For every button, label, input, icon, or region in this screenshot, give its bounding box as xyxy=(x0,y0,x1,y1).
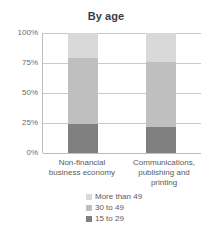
gridline-75 xyxy=(43,63,201,64)
bar-column-1[interactable] xyxy=(146,33,176,153)
category-label-line: Communications, xyxy=(118,158,210,168)
legend-item-label: More than 49 xyxy=(95,192,142,201)
bar-segment-30-to-49[interactable] xyxy=(68,58,98,124)
legend-item-1[interactable]: 30 to 49 xyxy=(0,202,212,213)
legend-item-0[interactable]: More than 49 xyxy=(0,191,212,202)
legend-swatch-icon xyxy=(86,205,92,211)
legend-item-2[interactable]: 15 to 29 xyxy=(0,213,212,224)
bar-segment-15-to-29[interactable] xyxy=(68,124,98,153)
y-axis-tick-label-100: 100% xyxy=(4,29,38,37)
plot-area xyxy=(42,33,200,153)
y-axis-tick-label-50: 50% xyxy=(4,89,38,97)
category-label-line: printing xyxy=(118,178,210,188)
chart-legend: More than 4930 to 4915 to 29 xyxy=(0,191,212,224)
category-label-line: business economy xyxy=(36,168,128,178)
y-axis-tick-label-75: 75% xyxy=(4,59,38,67)
legend-item-label: 30 to 49 xyxy=(95,203,124,212)
y-axis-tick-label-25: 25% xyxy=(4,119,38,127)
bar-segment-15-to-29[interactable] xyxy=(146,127,176,153)
x-axis-category-label-1: Communications,publishing andprinting xyxy=(118,158,210,188)
gridline-50 xyxy=(43,93,201,94)
bar-segment-more-than-49[interactable] xyxy=(146,33,176,62)
legend-swatch-icon xyxy=(86,194,92,200)
chart-title: By age xyxy=(0,10,212,22)
gridline-25 xyxy=(43,123,201,124)
chart-container: By age 100% 75% 50% 25% 0% Non-financial… xyxy=(0,0,212,232)
gridline-0 xyxy=(43,153,201,154)
category-label-line: Non-financial xyxy=(36,158,128,168)
bar-column-0[interactable] xyxy=(68,33,98,153)
category-label-line: publishing and xyxy=(118,168,210,178)
x-axis-category-label-0: Non-financialbusiness economy xyxy=(36,158,128,178)
y-axis-tick-label-0: 0% xyxy=(4,149,38,157)
legend-swatch-icon xyxy=(86,216,92,222)
bar-segment-more-than-49[interactable] xyxy=(68,33,98,58)
gridline-100 xyxy=(43,33,201,34)
legend-item-label: 15 to 29 xyxy=(95,214,124,223)
bar-segment-30-to-49[interactable] xyxy=(146,62,176,127)
